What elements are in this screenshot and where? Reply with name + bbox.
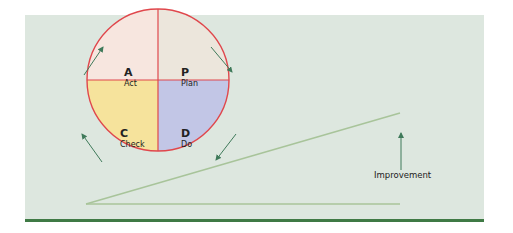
arrow-check-to-act-icon [82, 134, 102, 162]
plan-label: Plan [181, 79, 198, 88]
quadrant-act [87, 9, 158, 80]
act-label: Act [124, 79, 137, 88]
plan-letter: P [181, 66, 189, 79]
do-letter: D [181, 127, 190, 140]
improvement-label: Improvement [374, 170, 432, 180]
arrow-do-to-check-icon [216, 134, 236, 160]
check-label: Check [120, 140, 145, 149]
check-letter: C [120, 127, 128, 140]
quadrant-plan [158, 9, 229, 80]
act-letter: A [124, 66, 133, 79]
pdca-diagram: A Act P Plan C Check D Do Improvement [0, 0, 513, 233]
quadrant-do [158, 80, 229, 151]
do-label: Do [181, 140, 192, 149]
